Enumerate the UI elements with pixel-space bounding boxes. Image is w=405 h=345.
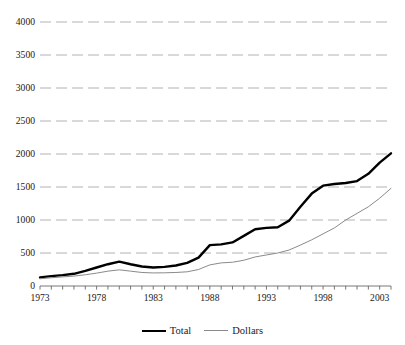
x-axis-tick-label: 1983: [144, 292, 163, 303]
legend-swatch-total-icon: [142, 330, 166, 332]
x-axis-tick-label: 1978: [87, 292, 106, 303]
series-lines: [40, 153, 391, 278]
legend-swatch-dollars-icon: [204, 330, 228, 331]
x-axis-tick-label: 1973: [30, 292, 49, 303]
x-axis-tick-label: 1988: [200, 292, 219, 303]
x-axis-tick-marks: [40, 286, 391, 290]
x-axis-tick-label: 1998: [313, 292, 332, 303]
y-axis-tick-label: 2500: [16, 115, 35, 126]
legend-label-total: Total: [170, 326, 191, 337]
series-line-total: [40, 153, 391, 277]
series-line-dollars: [40, 188, 391, 278]
legend-entry-dollars: Dollars: [204, 326, 263, 337]
y-axis-tick-labels: 05001000150020002500300035004000: [16, 16, 35, 291]
y-axis-tick-label: 3000: [16, 82, 35, 93]
x-axis-tick-label: 2003: [370, 292, 389, 303]
y-axis-tick-label: 0: [30, 280, 35, 291]
y-axis-tick-label: 4000: [16, 16, 35, 27]
y-axis-tick-label: 3500: [16, 49, 35, 60]
line-chart: 05001000150020002500300035004000 1973197…: [0, 0, 405, 345]
y-axis-tick-label: 1000: [16, 214, 35, 225]
chart-legend: Total Dollars: [0, 326, 405, 337]
x-axis-tick-label: 1993: [257, 292, 276, 303]
chart-plot-area: 05001000150020002500300035004000 1973197…: [0, 0, 405, 345]
x-axis-tick-labels: 1973197819831988199319982003: [30, 292, 389, 303]
y-axis-tick-label: 500: [21, 247, 36, 258]
y-axis-tick-label: 1500: [16, 181, 35, 192]
legend-entry-total: Total: [142, 326, 191, 337]
gridlines: [40, 22, 391, 253]
legend-label-dollars: Dollars: [232, 326, 263, 337]
y-axis-tick-label: 2000: [16, 148, 35, 159]
